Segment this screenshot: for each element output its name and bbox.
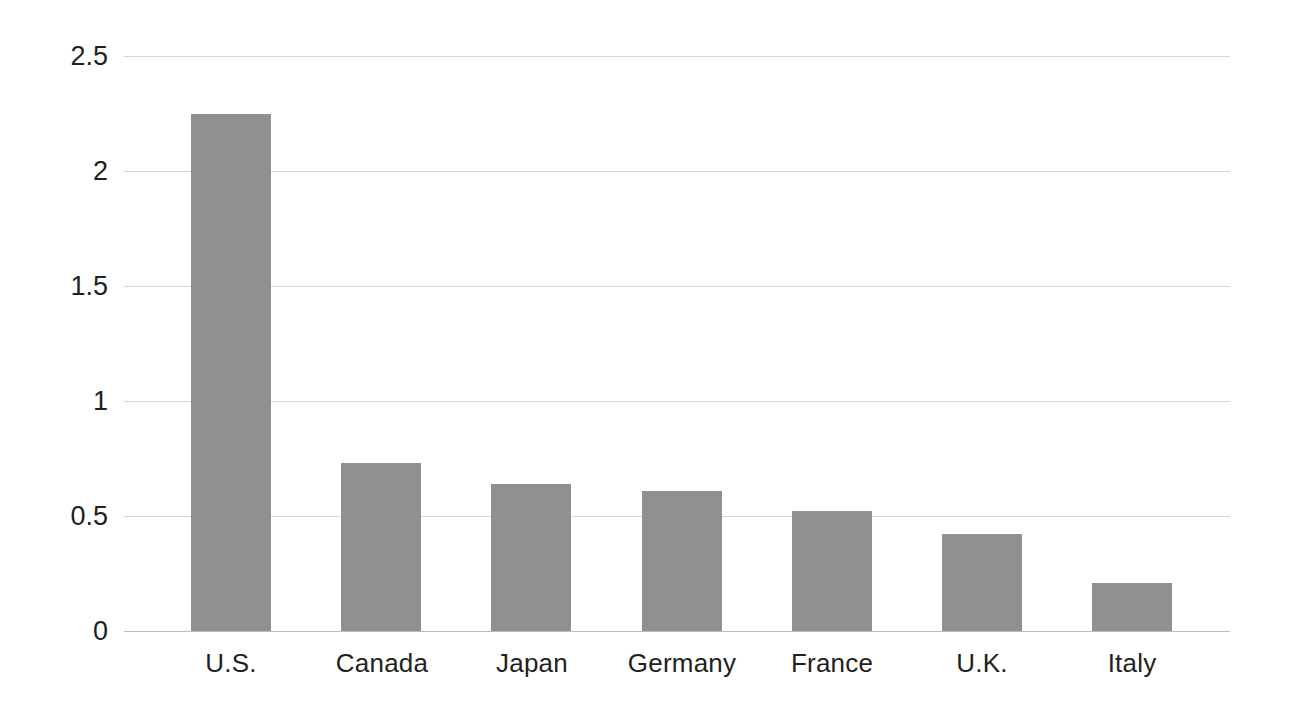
bar-u-s: [191, 114, 271, 632]
x-label-3: Germany: [628, 650, 736, 676]
bar-canada: [341, 463, 421, 631]
gridline-2-5: [124, 56, 1230, 57]
y-tick-1: 1: [0, 388, 108, 415]
y-tick-2-5: 2.5: [0, 43, 108, 70]
y-tick-2: 2: [0, 158, 108, 185]
x-label-0: U.S.: [205, 650, 256, 676]
y-tick-label: 1: [93, 386, 108, 416]
y-tick-label: 2: [93, 156, 108, 186]
bar-italy: [1092, 583, 1172, 631]
x-label-6: Italy: [1108, 650, 1157, 676]
y-tick-0: 0: [0, 618, 108, 645]
bar-germany: [642, 491, 722, 631]
gridline-1-5: [124, 286, 1230, 287]
y-tick-label: 0: [93, 616, 108, 646]
x-label-5: U.K.: [956, 650, 1007, 676]
y-tick-label: 2.5: [70, 41, 108, 71]
x-label-1: Canada: [336, 650, 428, 676]
bar-france: [792, 511, 872, 631]
x-label-2: Japan: [496, 650, 568, 676]
y-tick-label: 0.5: [70, 501, 108, 531]
gridline-2: [124, 171, 1230, 172]
bar-chart: 2.5 2 1.5 1 0.5 0 U.S. Canada Japan Germ…: [0, 0, 1293, 717]
bar-u-k: [942, 534, 1022, 631]
y-tick-0-5: 0.5: [0, 503, 108, 530]
x-label-4: France: [791, 650, 873, 676]
y-tick-label: 1.5: [70, 271, 108, 301]
gridline-1: [124, 401, 1230, 402]
bar-japan: [491, 484, 571, 631]
y-tick-1-5: 1.5: [0, 273, 108, 300]
